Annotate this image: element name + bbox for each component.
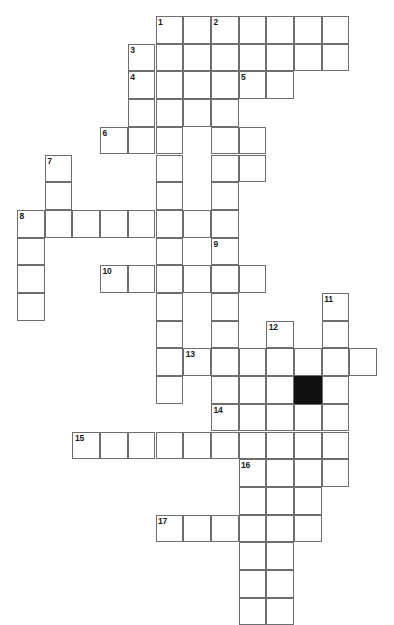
crossword-cell[interactable]	[322, 348, 350, 376]
crossword-cell[interactable]	[239, 16, 267, 44]
crossword-cell[interactable]	[294, 44, 322, 72]
crossword-cell[interactable]	[17, 293, 45, 321]
crossword-cell[interactable]: 3	[128, 44, 156, 72]
crossword-cell[interactable]	[294, 348, 322, 376]
crossword-cell[interactable]: 16	[239, 459, 267, 487]
crossword-cell[interactable]	[183, 16, 211, 44]
crossword-cell[interactable]	[211, 182, 239, 210]
crossword-cell[interactable]	[156, 238, 184, 266]
crossword-cell[interactable]	[45, 182, 73, 210]
crossword-cell[interactable]	[294, 432, 322, 460]
crossword-cell[interactable]	[45, 210, 73, 238]
crossword-cell[interactable]	[322, 404, 350, 432]
crossword-cell[interactable]: 6	[100, 127, 128, 155]
crossword-cell[interactable]	[100, 432, 128, 460]
crossword-cell[interactable]	[17, 238, 45, 266]
crossword-cell[interactable]	[156, 127, 184, 155]
crossword-cell[interactable]: 11	[322, 293, 350, 321]
crossword-cell[interactable]	[156, 44, 184, 72]
crossword-cell[interactable]	[156, 265, 184, 293]
crossword-cell[interactable]	[266, 376, 294, 404]
crossword-cell[interactable]: 2	[211, 16, 239, 44]
crossword-cell[interactable]	[266, 459, 294, 487]
crossword-cell[interactable]	[239, 348, 267, 376]
crossword-cell[interactable]: 15	[72, 432, 100, 460]
crossword-cell[interactable]	[183, 265, 211, 293]
crossword-cell[interactable]	[156, 348, 184, 376]
crossword-cell[interactable]	[266, 598, 294, 625]
crossword-cell[interactable]	[239, 376, 267, 404]
crossword-cell[interactable]	[156, 155, 184, 183]
crossword-cell[interactable]	[266, 432, 294, 460]
crossword-cell[interactable]	[266, 404, 294, 432]
crossword-cell[interactable]	[211, 321, 239, 349]
crossword-cell[interactable]	[211, 376, 239, 404]
crossword-cell[interactable]: 12	[266, 321, 294, 349]
crossword-cell[interactable]	[211, 348, 239, 376]
crossword-cell[interactable]	[266, 515, 294, 543]
crossword-cell[interactable]	[294, 487, 322, 515]
crossword-cell[interactable]	[266, 71, 294, 99]
crossword-cell[interactable]: 5	[239, 71, 267, 99]
crossword-cell[interactable]	[156, 99, 184, 127]
crossword-cell[interactable]	[322, 376, 350, 404]
crossword-cell[interactable]	[183, 99, 211, 127]
crossword-cell[interactable]	[183, 210, 211, 238]
crossword-cell[interactable]	[156, 71, 184, 99]
crossword-cell[interactable]	[266, 570, 294, 598]
crossword-cell[interactable]	[294, 404, 322, 432]
crossword-cell[interactable]	[183, 71, 211, 99]
crossword-cell[interactable]	[156, 182, 184, 210]
crossword-cell[interactable]	[266, 348, 294, 376]
crossword-cell[interactable]	[211, 293, 239, 321]
crossword-cell[interactable]	[100, 210, 128, 238]
crossword-cell[interactable]	[183, 44, 211, 72]
crossword-cell[interactable]	[294, 459, 322, 487]
crossword-cell[interactable]	[239, 515, 267, 543]
crossword-cell[interactable]: 17	[156, 515, 184, 543]
crossword-cell[interactable]	[266, 542, 294, 570]
crossword-cell[interactable]	[239, 404, 267, 432]
crossword-cell[interactable]	[239, 570, 267, 598]
crossword-cell[interactable]	[128, 127, 156, 155]
crossword-cell[interactable]	[128, 265, 156, 293]
crossword-cell[interactable]	[322, 16, 350, 44]
crossword-cell[interactable]	[128, 432, 156, 460]
crossword-cell[interactable]	[211, 432, 239, 460]
crossword-cell[interactable]: 9	[211, 238, 239, 266]
crossword-cell[interactable]	[239, 542, 267, 570]
crossword-cell[interactable]	[322, 44, 350, 72]
crossword-cell[interactable]: 7	[45, 155, 73, 183]
crossword-cell[interactable]	[211, 127, 239, 155]
crossword-cell[interactable]	[156, 293, 184, 321]
crossword-cell[interactable]	[322, 432, 350, 460]
crossword-cell[interactable]	[211, 71, 239, 99]
crossword-cell[interactable]	[322, 321, 350, 349]
crossword-cell[interactable]	[72, 210, 100, 238]
crossword-cell[interactable]	[239, 44, 267, 72]
crossword-cell[interactable]: 8	[17, 210, 45, 238]
crossword-cell[interactable]	[211, 44, 239, 72]
crossword-cell[interactable]	[239, 487, 267, 515]
crossword-cell[interactable]	[156, 376, 184, 404]
crossword-cell[interactable]	[266, 16, 294, 44]
crossword-cell[interactable]	[266, 44, 294, 72]
crossword-cell[interactable]	[239, 155, 267, 183]
crossword-cell[interactable]	[17, 265, 45, 293]
crossword-cell[interactable]	[156, 210, 184, 238]
crossword-cell[interactable]	[211, 515, 239, 543]
crossword-cell[interactable]	[211, 99, 239, 127]
crossword-cell[interactable]	[294, 16, 322, 44]
crossword-cell[interactable]	[239, 598, 267, 625]
crossword-cell[interactable]	[294, 515, 322, 543]
crossword-cell[interactable]: 10	[100, 265, 128, 293]
crossword-cell[interactable]: 13	[183, 348, 211, 376]
crossword-cell[interactable]	[239, 127, 267, 155]
crossword-cell[interactable]	[349, 348, 377, 376]
crossword-cell[interactable]	[239, 432, 267, 460]
crossword-cell[interactable]	[128, 99, 156, 127]
crossword-cell[interactable]	[211, 155, 239, 183]
crossword-cell[interactable]	[183, 515, 211, 543]
crossword-cell[interactable]	[266, 487, 294, 515]
